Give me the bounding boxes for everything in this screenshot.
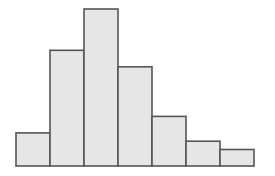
histogram-bar-4 [118,67,152,166]
histogram-bar-1 [16,133,50,166]
histogram-bar-7 [220,150,254,167]
histogram-bar-6 [186,141,220,166]
histogram-bar-2 [50,50,84,166]
histogram-bars [16,9,254,166]
histogram-bar-5 [152,116,186,166]
histogram-chart [0,0,275,176]
histogram-bar-3 [84,9,118,166]
